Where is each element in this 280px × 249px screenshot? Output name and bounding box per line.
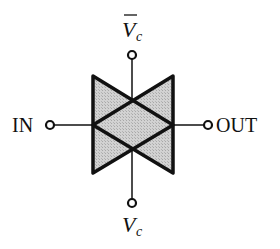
output-terminal[interactable] (204, 121, 212, 129)
output-label: OUT (216, 114, 257, 136)
bottom-control-terminal[interactable] (128, 199, 136, 207)
transmission-gate-diagram: IN OUT V c V c (0, 0, 280, 249)
top-control-terminal[interactable] (128, 51, 136, 59)
bottom-control-subscript: c (136, 224, 143, 239)
input-terminal[interactable] (46, 121, 54, 129)
top-control-subscript: c (136, 29, 143, 44)
input-label: IN (12, 114, 33, 136)
